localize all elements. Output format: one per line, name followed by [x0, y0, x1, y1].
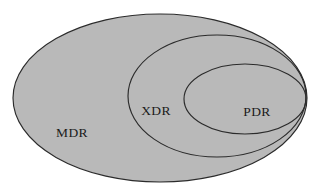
venn-diagram-svg: MDR XDR PDR: [0, 0, 319, 195]
label-pdr: PDR: [243, 104, 270, 119]
label-mdr: MDR: [56, 125, 88, 140]
venn-diagram-canvas: MDR XDR PDR: [0, 0, 319, 195]
label-xdr: XDR: [141, 103, 171, 118]
ellipse-mdr: [13, 14, 307, 182]
